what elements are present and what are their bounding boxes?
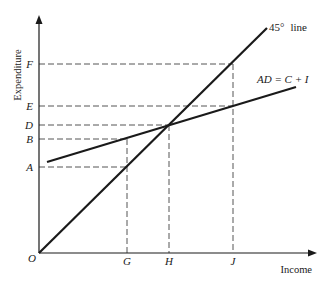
x-axis-arrow-icon [308,250,317,257]
y-tick-a: A [25,161,33,173]
axes [36,15,318,257]
x-tick-g: G [123,255,131,267]
y-axis-title: Expenditure [12,49,23,101]
y-tick-f: F [25,58,33,70]
line-45-label: 45°line [269,21,307,33]
line-45-word: line [290,21,307,33]
y-tick-d: D [24,119,33,131]
x-axis-title: Income [281,264,313,275]
ad-line-label: AD = C + I [256,73,310,85]
y-tick-b: B [26,133,33,145]
y-tick-e: E [25,100,33,112]
line-45-degree-text: 45° [269,21,284,33]
keynesian-cross-diagram: Expenditure Income O F E D B A G H J 45°… [0,0,332,283]
x-tick-h: H [164,255,174,267]
y-axis-arrow-icon [36,15,43,24]
x-tick-j: J [231,255,237,267]
origin-label: O [28,252,36,264]
